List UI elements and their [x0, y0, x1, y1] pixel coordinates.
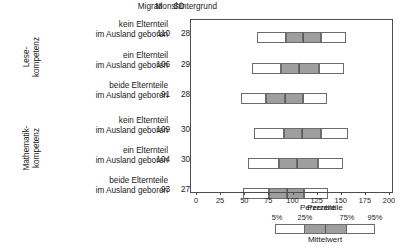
row-mean-value-2: 91 [148, 90, 170, 99]
x-tick-label-25: 25 [216, 196, 224, 205]
row-mean-value-4: 104 [148, 155, 170, 164]
box-segment-p25-mean [284, 128, 302, 139]
box-segment-p75-p95 [303, 93, 327, 104]
x-tick-0 [196, 192, 197, 195]
group-label-line1: Lese- [22, 19, 32, 95]
row-mean-value-0: 110 [148, 29, 170, 38]
legend-segment-p25-mean [304, 224, 326, 234]
legend-mean-label: Mittelwert [255, 235, 395, 244]
box-mean-line [303, 32, 304, 43]
box-segment-mean-p75 [303, 32, 321, 43]
box-segment-p5-p25 [248, 158, 279, 169]
x-tick-150 [341, 192, 342, 195]
box-segment-p75-p95 [318, 158, 343, 169]
group-label-mathematikkompetenz: Mathematik- kompetenz [22, 106, 41, 190]
legend-percentile-5pct: 5% [272, 213, 283, 222]
x-tick-125 [317, 192, 318, 195]
row-mean-value-3: 109 [148, 125, 170, 134]
x-tick-label-50: 50 [240, 196, 248, 205]
box-segment-p5-p25 [254, 128, 284, 139]
row-sd-value-0: 28 [170, 29, 190, 38]
box-row-2 [191, 93, 394, 104]
x-tick-75 [268, 192, 269, 195]
box-mean-line [285, 93, 286, 104]
column-header-sd: SD [168, 2, 190, 11]
legend-segment-p5-p25 [275, 224, 305, 234]
x-tick-175 [365, 192, 366, 195]
box-segment-mean-p75 [285, 93, 303, 104]
box-segment-mean-p75 [299, 63, 318, 74]
legend-segment-mean-p75 [325, 224, 347, 234]
legend-percentile-75pct: 75% [340, 213, 355, 222]
group-label-line1: Mathematik- [22, 106, 32, 190]
x-tick-50 [244, 192, 245, 195]
legend-mean-line [325, 224, 326, 234]
x-tick-label-0: 0 [194, 196, 198, 205]
box-segment-p5-p25 [241, 93, 266, 104]
box-segment-p75-p95 [321, 32, 345, 43]
box-row-4 [191, 158, 394, 169]
figure-root: Migrationshintergrund M SD Lese- kompete… [0, 0, 400, 251]
box-segment-p5-p25 [252, 63, 281, 74]
box-segment-p25-mean [279, 158, 297, 169]
column-header-migration: Migrationshintergrund [77, 2, 217, 11]
row-sd-value-5: 27 [170, 185, 190, 194]
box-row-0 [191, 32, 394, 43]
legend-title: Perzentile [255, 203, 395, 212]
box-mean-line [299, 63, 300, 74]
x-tick-25 [220, 192, 221, 195]
box-row-3 [191, 128, 394, 139]
row-sd-value-4: 30 [170, 155, 190, 164]
legend-percentile-25pct: 25% [298, 213, 313, 222]
row-sd-value-2: 28 [170, 90, 190, 99]
box-segment-mean-p75 [302, 128, 321, 139]
box-segment-mean-p75 [297, 158, 317, 169]
row-sd-value-1: 29 [170, 60, 190, 69]
box-segment-p75-p95 [319, 63, 344, 74]
box-segment-p5-p25 [257, 32, 286, 43]
column-header-mean: M [148, 2, 170, 11]
box-row-1 [191, 63, 394, 74]
x-tick-200 [389, 192, 390, 195]
box-segment-p25-mean [266, 93, 284, 104]
row-mean-value-5: 93 [148, 185, 170, 194]
legend: Perzentile 5%25%75%95% Mittelwert [255, 203, 395, 249]
box-segment-p75-p95 [321, 128, 347, 139]
legend-percentile-95pct: 95% [368, 213, 383, 222]
row-sd-value-3: 30 [170, 125, 190, 134]
plot-area [190, 19, 393, 193]
x-axis: 0255075100125150175200 [190, 192, 393, 194]
x-tick-100 [293, 192, 294, 195]
row-mean-value-1: 106 [148, 60, 170, 69]
box-mean-line [297, 158, 298, 169]
box-mean-line [302, 128, 303, 139]
box-segment-p25-mean [281, 63, 299, 74]
group-label-lesekompetenz: Lese- kompetenz [22, 19, 41, 95]
legend-box-sample [275, 224, 375, 234]
box-segment-p25-mean [286, 32, 303, 43]
legend-segment-p75-p95 [346, 224, 375, 234]
